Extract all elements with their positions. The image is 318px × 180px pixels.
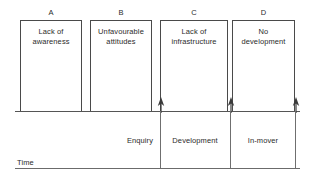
barrier-text-b: Unfavourable attitudes: [98, 21, 144, 47]
barrier-text-a: Lack of awareness: [32, 21, 69, 47]
barrier-box-d: No development: [232, 20, 295, 111]
stage-label-d: D: [232, 8, 295, 17]
barrier-box-a: Lack of awareness: [20, 20, 82, 111]
stage-label-a: A: [20, 8, 82, 17]
time-axis-label: Time: [17, 158, 34, 167]
in-mover-arrow-icon: [290, 97, 302, 113]
phase-label-enquiry: Enquiry: [120, 136, 160, 145]
development-arrow-icon: [225, 97, 237, 113]
stage-label-b: B: [90, 8, 152, 17]
time-axis-line: [15, 168, 300, 169]
barrier-box-c: Lack of infrastructure: [160, 20, 228, 111]
phase-label-in-mover: In-mover: [231, 136, 295, 145]
barriers-timeline-diagram: A B C D Lack of awareness Unfavourable a…: [0, 0, 318, 180]
barrier-text-d: No development: [241, 21, 285, 47]
phase-divider-in-mover: [295, 111, 296, 168]
barrier-box-b: Unfavourable attitudes: [90, 20, 152, 111]
stage-label-c: C: [160, 8, 228, 17]
barrier-text-c: Lack of infrastructure: [171, 21, 216, 47]
enquiry-arrow-icon: [155, 97, 167, 113]
phase-label-development: Development: [161, 136, 229, 145]
